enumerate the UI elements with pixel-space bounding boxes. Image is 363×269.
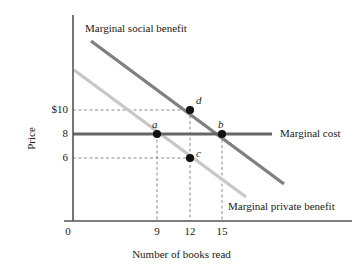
x-tick-label-9: 9 [148, 226, 166, 237]
x-tick-label-15: 15 [213, 226, 231, 237]
y-tick-label-8: 8 [38, 128, 68, 139]
y-tick-label-6: 6 [38, 152, 68, 163]
y-tick-label-10: $10 [38, 104, 68, 115]
point-label-d: d [196, 95, 202, 106]
point-label-c: c [196, 148, 201, 159]
point-label-a: a [152, 119, 158, 130]
x-tick-label-12: 12 [181, 226, 199, 237]
data-point-d [186, 106, 194, 114]
guide-lines [73, 110, 222, 221]
y-axis-title: Price [26, 116, 37, 162]
series-label-marginal-social-benefit: Marginal social benefit [85, 23, 187, 34]
series-label-marginal-private-benefit: Marginal private benefit [228, 201, 335, 212]
series-label-marginal-cost: Marginal cost [280, 128, 341, 139]
x-tick-label-0: 0 [59, 226, 77, 237]
x-axis-title: Number of books read [0, 249, 363, 260]
economics-externality-chart: $10 8 6 0 9 12 15 a b c d Marginal socia… [0, 0, 363, 269]
data-point-a [153, 130, 161, 138]
data-point-c [186, 154, 194, 162]
data-point-b [218, 130, 226, 138]
point-label-b: b [218, 119, 224, 130]
